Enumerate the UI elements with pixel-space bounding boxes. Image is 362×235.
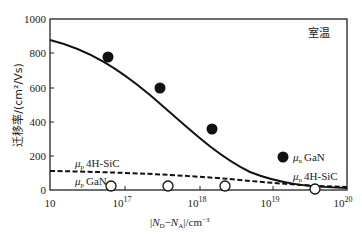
label-mu-n-4h-sic: μn4H-SiC <box>292 170 338 184</box>
x-tick-1e18: 1018 <box>188 195 207 209</box>
x-tick-1e20: 1020 <box>334 195 353 209</box>
x-axis-label: |ND−NA|/cm−3 <box>150 216 210 230</box>
label-mu-p-4h-sic: μp4H-SiC <box>74 157 120 171</box>
y-tick-1000: 1000 <box>24 13 47 25</box>
annotation-room-temp: 室温 <box>308 26 330 40</box>
y-tick-0: 0 <box>41 184 47 196</box>
x-tick-1e17: 1017 <box>113 195 132 209</box>
mobility-chart: 1000 800 600 400 200 0 10 1017 1018 1019… <box>0 0 362 235</box>
label-mu-p-gan: μpGaN <box>74 175 107 189</box>
x-tick-1e19: 1019 <box>261 195 280 209</box>
x-tick-10: 10 <box>45 197 57 209</box>
y-tick-400: 400 <box>30 116 47 128</box>
y-tick-200: 200 <box>30 150 47 162</box>
label-mu-n-gan: μnGaN <box>292 151 325 165</box>
mu-n-gan-points <box>103 52 289 163</box>
y-axis-label: 迁移率/(cm²/Vs) <box>11 63 25 146</box>
y-tick-600: 600 <box>30 82 47 94</box>
y-tick-800: 800 <box>30 47 47 59</box>
